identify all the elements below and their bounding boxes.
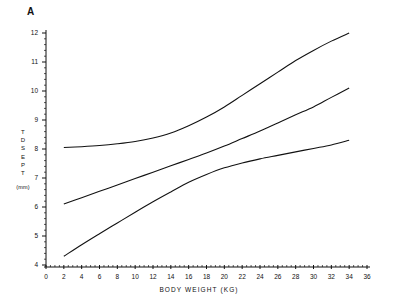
chart-line-lower <box>64 140 349 256</box>
x-tick-label: 6 <box>92 273 108 280</box>
y-tick-label: 10 <box>22 87 38 94</box>
y-axis-title-char: T <box>16 169 30 177</box>
y-tick-label: 6 <box>22 203 38 210</box>
chart-axes <box>42 30 370 269</box>
x-tick-label: 34 <box>341 273 357 280</box>
x-tick-label: 32 <box>323 273 339 280</box>
x-tick-label: 18 <box>199 273 215 280</box>
chart-svg <box>0 0 398 306</box>
chart-series-group <box>64 33 349 256</box>
y-tick-label: 5 <box>22 232 38 239</box>
chart-plot-area <box>0 0 398 306</box>
x-axis-title: BODY WEIGHT (KG) <box>0 286 398 293</box>
x-tick-label: 8 <box>109 273 125 280</box>
y-tick-label: 4 <box>22 261 38 268</box>
y-axis-title: TDSEPT (mm) <box>16 128 30 191</box>
y-axis-title-char: P <box>16 161 30 169</box>
figure-panel-a: A 456789101112 0246810121416182022242628… <box>0 0 398 306</box>
y-axis-title-char: D <box>16 136 30 144</box>
chart-line-middle <box>64 88 349 204</box>
y-axis-title-char: E <box>16 153 30 161</box>
x-tick-label: 0 <box>38 273 54 280</box>
x-tick-label: 24 <box>252 273 268 280</box>
x-tick-label: 30 <box>306 273 322 280</box>
y-axis-ticks <box>42 33 46 265</box>
y-tick-label: 11 <box>22 58 38 65</box>
x-tick-label: 2 <box>56 273 72 280</box>
x-tick-label: 22 <box>234 273 250 280</box>
x-tick-label: 36 <box>359 273 375 280</box>
x-tick-label: 4 <box>74 273 90 280</box>
y-axis-unit: (mm) <box>16 183 30 191</box>
x-tick-label: 28 <box>288 273 304 280</box>
x-tick-label: 14 <box>163 273 179 280</box>
y-axis-title-char: T <box>16 128 30 136</box>
x-tick-label: 12 <box>145 273 161 280</box>
x-tick-label: 26 <box>270 273 286 280</box>
x-tick-label: 10 <box>127 273 143 280</box>
y-tick-label: 9 <box>22 116 38 123</box>
x-tick-label: 20 <box>216 273 232 280</box>
y-tick-label: 12 <box>22 29 38 36</box>
chart-line-upper <box>64 33 349 148</box>
y-axis-title-char: S <box>16 144 30 152</box>
x-tick-label: 16 <box>181 273 197 280</box>
